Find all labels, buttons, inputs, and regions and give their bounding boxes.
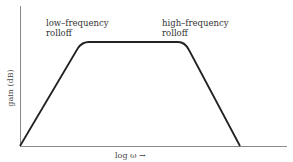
gain-curve (20, 42, 240, 146)
low-frequency-label: low–frequency (46, 18, 109, 28)
high-frequency-label: high–frequency (162, 18, 229, 28)
high-frequency-rolloff-label: rolloff (162, 28, 189, 38)
bandpass-gain-diagram: low–frequency rolloff high–frequency rol… (0, 0, 293, 162)
x-axis-label: log ω → (115, 151, 146, 160)
low-frequency-rolloff-label: rolloff (46, 28, 73, 38)
y-axis-label: gain (dB) (6, 69, 15, 106)
